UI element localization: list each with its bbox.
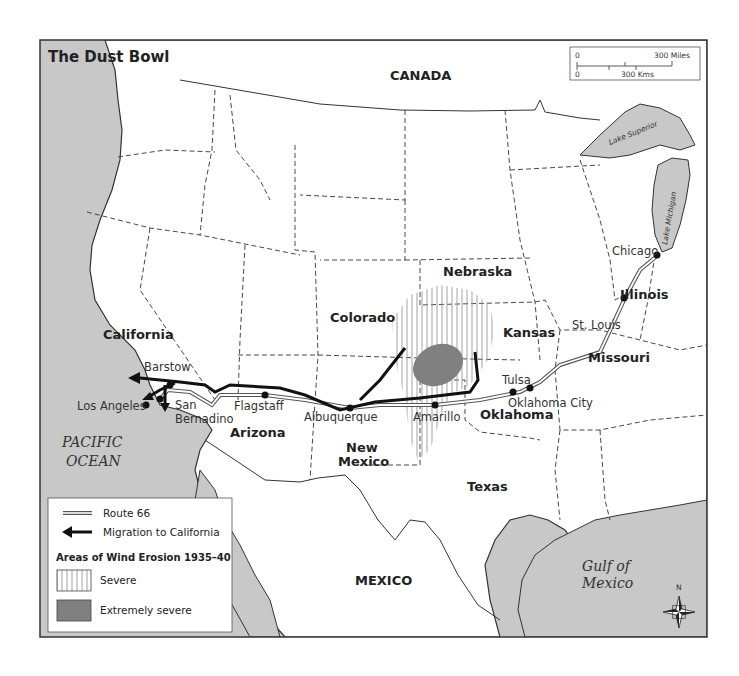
map-title: The Dust Bowl (48, 48, 170, 66)
label-missouri: Missouri (588, 350, 650, 365)
label-flagstaff: Flagstaff (234, 399, 285, 413)
label-oklahoma-city: Oklahoma City (508, 396, 593, 410)
label-canada: CANADA (390, 68, 451, 83)
label-san-bernardino-1: San (175, 398, 197, 412)
scale-kms-zero: 0 (575, 70, 580, 79)
label-new-mexico-2: Mexico (338, 454, 389, 469)
legend-route66: Route 66 (103, 507, 150, 519)
scale-kms-label: 300 Kms (621, 70, 654, 79)
label-pacific-1: PACIFIC (61, 434, 123, 450)
legend-extremely-severe: Extremely severe (100, 604, 192, 616)
label-pacific-2: OCEAN (66, 453, 122, 469)
label-barstow: Barstow (144, 360, 191, 374)
scale-miles-label: 300 Miles (654, 51, 690, 60)
label-gulf-2: Mexico (581, 575, 633, 591)
legend-severe: Severe (100, 574, 136, 586)
label-amarillo: Amarillo (413, 410, 460, 424)
label-tulsa: Tulsa (501, 373, 531, 387)
legend-migration: Migration to California (103, 526, 220, 538)
label-gulf-1: Gulf of (582, 558, 633, 574)
label-kansas: Kansas (503, 325, 556, 340)
label-california: California (103, 327, 174, 342)
label-mexico: MEXICO (355, 573, 412, 588)
label-chicago: Chicago (612, 244, 658, 258)
label-arizona: Arizona (230, 425, 285, 440)
label-albuquerque: Albuquerque (304, 410, 378, 424)
label-new-mexico-1: New (346, 440, 378, 455)
label-san-bernardino-2: Bernadino (175, 412, 234, 426)
label-texas: Texas (467, 479, 508, 494)
scale-miles-zero: 0 (575, 51, 580, 60)
legend-erosion-heading: Areas of Wind Erosion 1935–40 (56, 552, 231, 563)
label-los-angeles: Los Angeles (77, 399, 146, 413)
label-illinois: Illinois (620, 287, 669, 302)
label-nebraska: Nebraska (443, 264, 512, 279)
label-colorado: Colorado (330, 310, 395, 325)
dust-bowl-map: The Dust Bowl CANADA MEXICO PACIFIC OCEA… (0, 0, 739, 676)
label-st-louis: St. Louis (572, 318, 621, 332)
compass-north-label: N (676, 583, 682, 592)
